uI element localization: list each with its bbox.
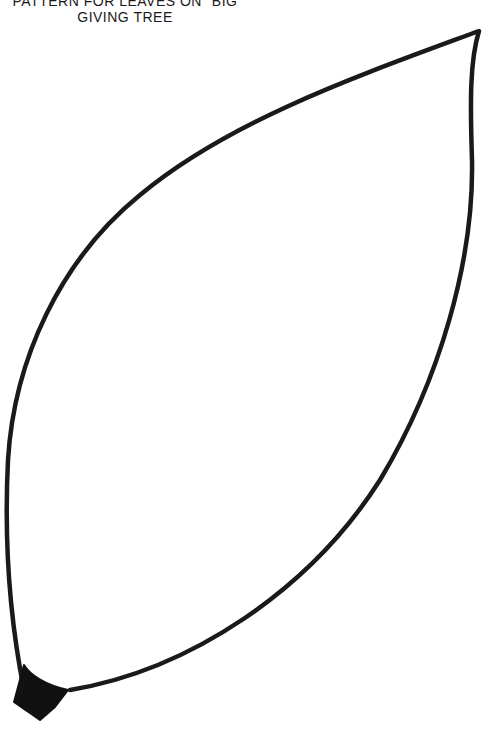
leaf-outline-icon <box>0 0 498 747</box>
leaf-stem <box>14 665 68 720</box>
leaf-outline <box>7 31 479 690</box>
